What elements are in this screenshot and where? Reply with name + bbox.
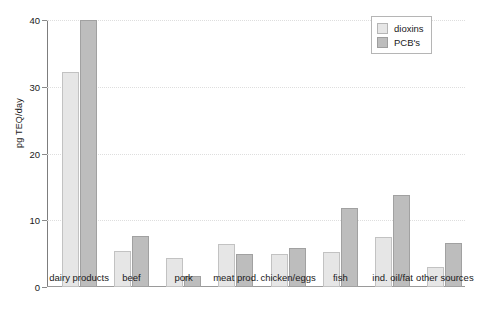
y-tick-label: 40 (29, 15, 40, 26)
legend-swatch-dioxins (377, 23, 388, 34)
y-tick-label: 10 (29, 215, 40, 226)
x-tick-label: dairy products (49, 272, 109, 283)
legend-item-pcb: PCB's (377, 35, 424, 49)
bar-chart: pg TEQ/day 010203040 dairy productsbeefp… (0, 0, 479, 326)
legend: dioxins PCB's (371, 16, 432, 54)
y-tick-label: 20 (29, 148, 40, 159)
bar-group (114, 20, 149, 287)
x-tick-label: ind. oil/fat (372, 272, 413, 283)
y-axis-label: pg TEQ/day (14, 28, 24, 148)
bar-group (323, 20, 358, 287)
y-tick-label: 0 (35, 282, 40, 293)
bar-dioxins (62, 72, 79, 287)
y-tick-mark (42, 154, 47, 155)
y-tick-mark (42, 87, 47, 88)
y-tick-label: 30 (29, 81, 40, 92)
y-tick-mark (42, 20, 47, 21)
x-tick-label: other sources (416, 272, 474, 283)
bar-group (427, 20, 462, 287)
plot-area: 010203040 (47, 20, 465, 287)
y-tick-mark (42, 220, 47, 221)
legend-item-dioxins: dioxins (377, 21, 424, 35)
legend-label-pcb: PCB's (394, 37, 420, 48)
y-tick-mark (42, 287, 47, 288)
bar-group (375, 20, 410, 287)
x-tick-label: meat prod. (213, 272, 258, 283)
bar-group (166, 20, 201, 287)
bar-group (218, 20, 253, 287)
x-tick-label: chicken/eggs (260, 272, 315, 283)
x-tick-label: pork (174, 272, 192, 283)
legend-label-dioxins: dioxins (394, 23, 424, 34)
bar-pcb (80, 20, 97, 287)
x-tick-label: fish (333, 272, 348, 283)
bar-group (62, 20, 97, 287)
legend-swatch-pcb (377, 37, 388, 48)
x-tick-label: beef (122, 272, 141, 283)
bar-group (271, 20, 306, 287)
